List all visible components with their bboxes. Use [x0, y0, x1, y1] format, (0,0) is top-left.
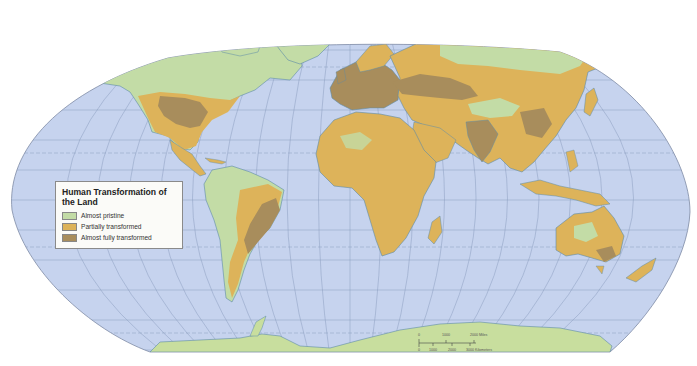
legend-label: Almost pristine — [81, 212, 124, 219]
map-legend: Human Transformation of the Land Almost … — [55, 181, 183, 249]
legend-swatch-almost-fully-transformed — [62, 234, 77, 242]
legend-item-almost-pristine: Almost pristine — [62, 210, 176, 221]
legend-title: Human Transformation of the Land — [62, 187, 176, 207]
kamchatka — [600, 50, 616, 74]
scale-miles-0: 0 — [418, 333, 420, 337]
scale-km-0: 0 — [418, 348, 420, 352]
scale-km-1000: 1000 — [429, 348, 437, 352]
legend-item-almost-fully-transformed: Almost fully transformed — [62, 232, 176, 243]
legend-swatch-partially-transformed — [62, 223, 77, 231]
legend-item-partially-transformed: Partially transformed — [62, 221, 176, 232]
scale-bar: 0 1000 2000 Miles 0 1000 2000 3000 Kilom… — [416, 330, 536, 356]
scale-km-3000: 3000 Kilometers — [466, 348, 492, 352]
scale-miles-1000: 1000 — [442, 333, 450, 337]
scale-km-2000: 2000 — [448, 348, 456, 352]
legend-swatch-almost-pristine — [62, 212, 77, 220]
legend-label: Almost fully transformed — [81, 234, 152, 241]
scale-miles-2000: 2000 Miles — [470, 333, 487, 337]
legend-label: Partially transformed — [81, 223, 141, 230]
